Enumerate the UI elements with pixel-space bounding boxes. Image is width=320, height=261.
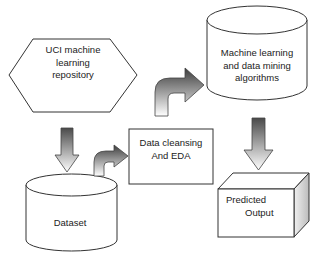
curved-arrow-icon xyxy=(155,68,204,116)
down-arrow-icon xyxy=(55,128,79,172)
label-line: Data cleansing xyxy=(131,137,211,150)
label-line: Machine learning xyxy=(214,47,300,60)
label-line: learning xyxy=(33,57,113,70)
dataset-cylinder xyxy=(26,174,117,251)
label-line: UCI machine xyxy=(33,44,113,57)
label-line: Output xyxy=(226,207,296,220)
label-line: algorithms xyxy=(214,72,300,85)
data-cleansing-label: Data cleansing And EDA xyxy=(131,137,211,162)
label-line: repository xyxy=(33,69,113,82)
uci-repository-label: UCI machine learning repository xyxy=(33,44,113,82)
dataset-label: Dataset xyxy=(40,217,100,230)
label-line: Dataset xyxy=(40,217,100,230)
label-line: And EDA xyxy=(131,150,211,163)
ml-algorithms-label: Machine learning and data mining algorit… xyxy=(214,47,300,85)
label-line: Predicted xyxy=(226,194,296,207)
curved-arrow-icon xyxy=(94,145,128,176)
label-line: and data mining xyxy=(214,60,300,73)
predicted-output-label: Predicted Output xyxy=(226,194,296,219)
down-arrow-icon xyxy=(244,118,273,170)
